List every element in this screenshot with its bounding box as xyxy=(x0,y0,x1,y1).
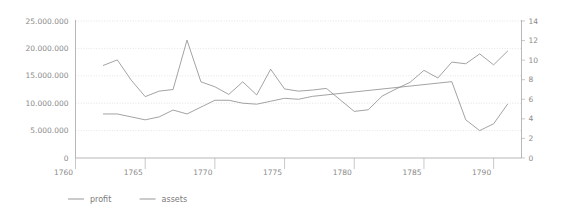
gridlines xyxy=(76,21,522,131)
x-axis-tick-label: 1780 xyxy=(333,168,352,177)
y-axis-right-tick-label: 4 xyxy=(529,114,534,123)
x-axis-tick-label: 1775 xyxy=(263,168,282,177)
y-axis-right-tick-label: 0 xyxy=(529,154,534,163)
y-axis-left-tick-label: 0 xyxy=(64,154,69,163)
x-axis-labels: 1760176517701775178017851790 xyxy=(54,168,491,177)
y-axis-left-labels: 05.000.00010.000.00015.000.00020.000.000… xyxy=(26,17,69,163)
y-axis-left-tick-label: 10.000.000 xyxy=(26,99,69,108)
legend-label-profit: profit xyxy=(90,195,111,204)
y-axis-right-tick-label: 12 xyxy=(529,36,539,45)
y-axis-right-labels: 02468101214 xyxy=(529,17,539,163)
x-axis-tick-label: 1790 xyxy=(472,168,491,177)
x-axis-tick-label: 1770 xyxy=(193,168,212,177)
series-line-assets xyxy=(103,82,507,131)
line-chart: 05.000.00010.000.00015.000.00020.000.000… xyxy=(0,0,572,212)
data-series xyxy=(103,40,507,130)
legend-label-assets: assets xyxy=(162,195,187,204)
y-axis-left-tick-label: 20.000.000 xyxy=(26,44,69,53)
y-axis-right-tick-label: 6 xyxy=(529,95,534,104)
y-axis-left-tick-label: 15.000.000 xyxy=(26,71,69,80)
y-axis-right-tick-label: 14 xyxy=(529,17,539,26)
y-axis-right-tick-label: 8 xyxy=(529,75,534,84)
chart-legend: profitassets xyxy=(68,195,187,204)
x-axis-tick-label: 1760 xyxy=(54,168,73,177)
y-axis-right-tick-label: 10 xyxy=(529,56,539,65)
tick-marks xyxy=(76,21,526,169)
x-axis-tick-label: 1785 xyxy=(402,168,421,177)
chart-container: 05.000.00010.000.00015.000.00020.000.000… xyxy=(0,0,572,212)
y-axis-left-tick-label: 5.000.000 xyxy=(30,126,68,135)
x-axis-tick-label: 1765 xyxy=(124,168,143,177)
y-axis-left-tick-label: 25.000.000 xyxy=(26,17,69,26)
y-axis-right-tick-label: 2 xyxy=(529,134,534,143)
